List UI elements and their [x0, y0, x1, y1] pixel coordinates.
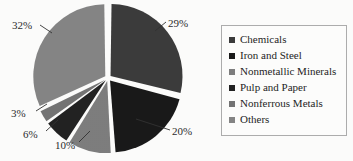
slice-label-nonferrous-metals: 3%	[11, 107, 26, 119]
legend-swatch-icon	[229, 69, 235, 75]
legend-item: Others	[229, 112, 346, 127]
legend-item: Iron and Steel	[229, 48, 346, 63]
legend-swatch-icon	[229, 53, 235, 59]
legend-item-label: Others	[240, 114, 269, 125]
legend-item-label: Chemicals	[240, 34, 286, 45]
legend-item-label: Iron and Steel	[240, 50, 302, 61]
slice-label-chemicals: 29%	[168, 17, 188, 29]
legend-item: Nonferrous Metals	[229, 96, 346, 111]
legend-swatch-icon	[229, 37, 235, 43]
slice-label-others: 32%	[12, 19, 32, 31]
legend-item-label: Nonferrous Metals	[240, 98, 323, 109]
legend-swatch-icon	[229, 101, 235, 107]
pie-chart-figure: 29% 20% 32% 3% 6% 10% ChemicalsIron and …	[0, 0, 353, 161]
pie-slice	[110, 80, 179, 152]
legend-item-label: Pulp and Paper	[240, 82, 307, 93]
legend-item: Chemicals	[229, 32, 346, 47]
chart-legend: ChemicalsIron and SteelNonmetallic Miner…	[221, 25, 347, 136]
legend-swatch-icon	[229, 85, 235, 91]
legend-swatch-icon	[229, 117, 235, 123]
legend-item: Pulp and Paper	[229, 80, 346, 95]
leader-line	[40, 25, 52, 33]
legend-item-label: Nonmetallic Minerals	[240, 66, 336, 77]
slice-label-pulp-and-paper: 6%	[23, 128, 38, 140]
legend-item: Nonmetallic Minerals	[229, 64, 346, 79]
slice-label-iron-and-steel: 20%	[172, 125, 192, 137]
slice-label-nonmetallic-minerals: 10%	[55, 139, 75, 151]
